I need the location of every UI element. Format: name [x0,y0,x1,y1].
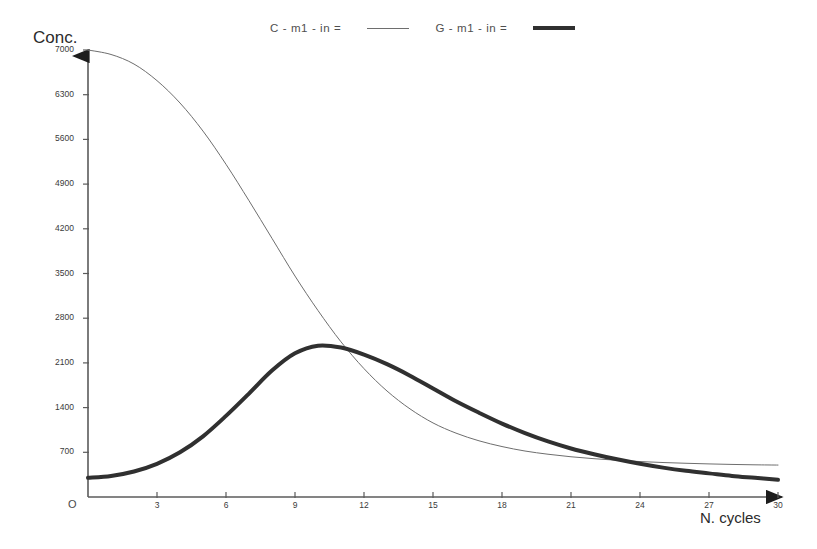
chart-plot-area [0,0,817,549]
series-line-g [88,345,778,479]
chart-page: C - m1 - in = G - m1 - in = Conc. N. cyc… [0,0,817,549]
series-line-c [88,50,778,465]
